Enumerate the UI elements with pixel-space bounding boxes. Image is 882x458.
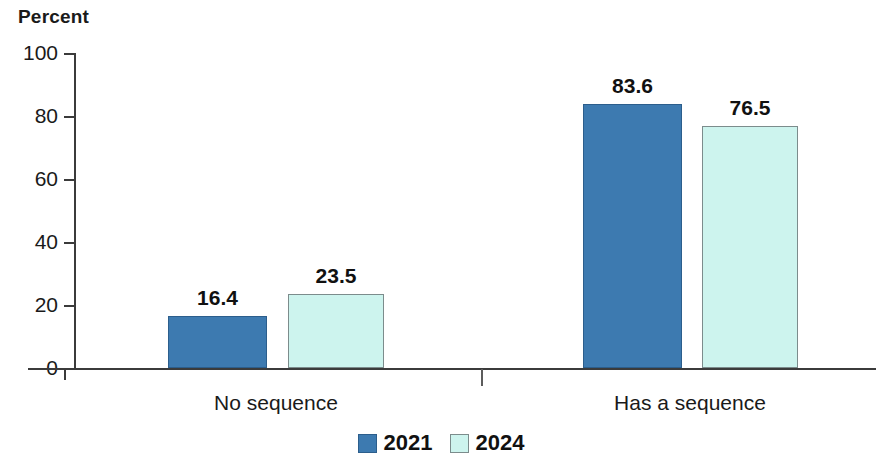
bar-value-has-a-sequence-2024: 76.5 xyxy=(702,96,798,120)
y-axis-line xyxy=(74,53,76,369)
y-tick-label-20: 20 xyxy=(2,293,58,317)
y-tick-label-60: 60 xyxy=(2,167,58,191)
y-tick-40 xyxy=(64,242,75,244)
bar-has-a-sequence-2024[interactable] xyxy=(702,126,798,368)
chart-legend: 2021 2024 xyxy=(0,430,882,456)
y-tick-label-40: 40 xyxy=(2,230,58,254)
bar-value-no-sequence-2024: 23.5 xyxy=(288,264,384,288)
legend-label-2021: 2021 xyxy=(384,430,433,456)
legend-label-2024: 2024 xyxy=(476,430,525,456)
legend-item-2021[interactable]: 2021 xyxy=(358,430,433,456)
legend-swatch-2021-icon xyxy=(358,434,377,453)
bar-value-no-sequence-2021: 16.4 xyxy=(168,286,267,310)
y-tick-label-80: 80 xyxy=(2,104,58,128)
y-tick-80 xyxy=(64,116,75,118)
category-separator-tick xyxy=(481,369,483,386)
legend-swatch-2024-icon xyxy=(450,434,469,453)
bar-no-sequence-2021[interactable] xyxy=(168,316,267,368)
category-label-has-a-sequence: Has a sequence xyxy=(580,391,800,415)
x-axis-line xyxy=(28,368,876,370)
bar-has-a-sequence-2021[interactable] xyxy=(583,104,682,368)
y-tick-20 xyxy=(64,305,75,307)
bar-value-has-a-sequence-2021: 83.6 xyxy=(583,74,682,98)
category-label-no-sequence: No sequence xyxy=(166,391,386,415)
x-axis-origin-tick xyxy=(64,368,66,380)
plot-area: 100 80 60 40 20 0 16.4 23.5 No sequence … xyxy=(0,0,882,458)
bar-no-sequence-2024[interactable] xyxy=(288,294,384,368)
y-tick-100 xyxy=(64,53,75,55)
legend-item-2024[interactable]: 2024 xyxy=(450,430,525,456)
y-tick-60 xyxy=(64,179,75,181)
bar-chart: Percent 100 80 60 40 20 0 16.4 23.5 No s… xyxy=(0,0,882,458)
y-tick-label-100: 100 xyxy=(2,41,58,65)
